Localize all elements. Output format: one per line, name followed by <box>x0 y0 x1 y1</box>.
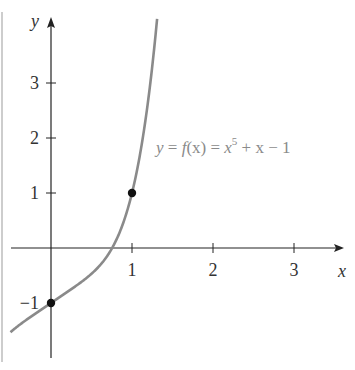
data-point <box>128 189 136 197</box>
data-point <box>47 299 55 307</box>
x-tick-label: 2 <box>209 260 218 280</box>
y-tick-label: 2 <box>30 128 39 148</box>
y-axis-label: y <box>29 11 39 31</box>
y-tick-label: 3 <box>30 73 39 93</box>
x-tick-label: 3 <box>290 260 299 280</box>
equation-label: y = f(x) = x5 + x − 1 <box>156 138 291 158</box>
function-curve <box>11 19 158 332</box>
x-tick-label: 1 <box>128 260 137 280</box>
y-tick-label: −1 <box>20 293 39 313</box>
x-axis-label: x <box>337 261 346 281</box>
y-tick-label: 1 <box>30 183 39 203</box>
function-plot: 123−1123xy <box>0 0 355 370</box>
